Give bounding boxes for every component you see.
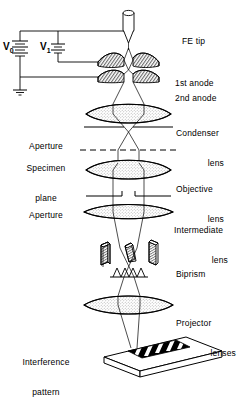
biprism-slab-center — [125, 243, 136, 262]
objective-lens-element — [86, 160, 171, 179]
v0-battery-symbol — [12, 41, 28, 77]
biprism-slab-left — [101, 242, 110, 267]
label-second-anode: 2nd anode — [175, 73, 217, 113]
ground-symbol — [13, 90, 27, 95]
biprism-assembly — [101, 240, 158, 267]
label-aperture-lower: Aperture — [14, 190, 78, 230]
field-emission-tip — [123, 10, 134, 50]
second-anode-electrode — [98, 70, 159, 83]
label-biprism: Biprism — [176, 249, 205, 289]
v0-label: V0 — [3, 41, 14, 54]
projector-lens-element — [84, 296, 173, 314]
label-fe-tip: FE tip — [182, 16, 205, 56]
v1-label: V1 — [40, 41, 51, 54]
first-anode-electrode — [98, 53, 159, 67]
intermediate-lens-element — [84, 205, 173, 219]
beam-path-specimen — [118, 132, 139, 163]
label-interference-pattern: Interference pattern — [4, 337, 88, 401]
wave-zigzag-pattern — [110, 268, 148, 277]
condenser-lens-element — [86, 104, 171, 123]
biprism-slab-right — [149, 240, 158, 265]
aperture-lower-bar — [86, 191, 171, 196]
label-projector-lenses: Projector lenses — [176, 298, 242, 368]
